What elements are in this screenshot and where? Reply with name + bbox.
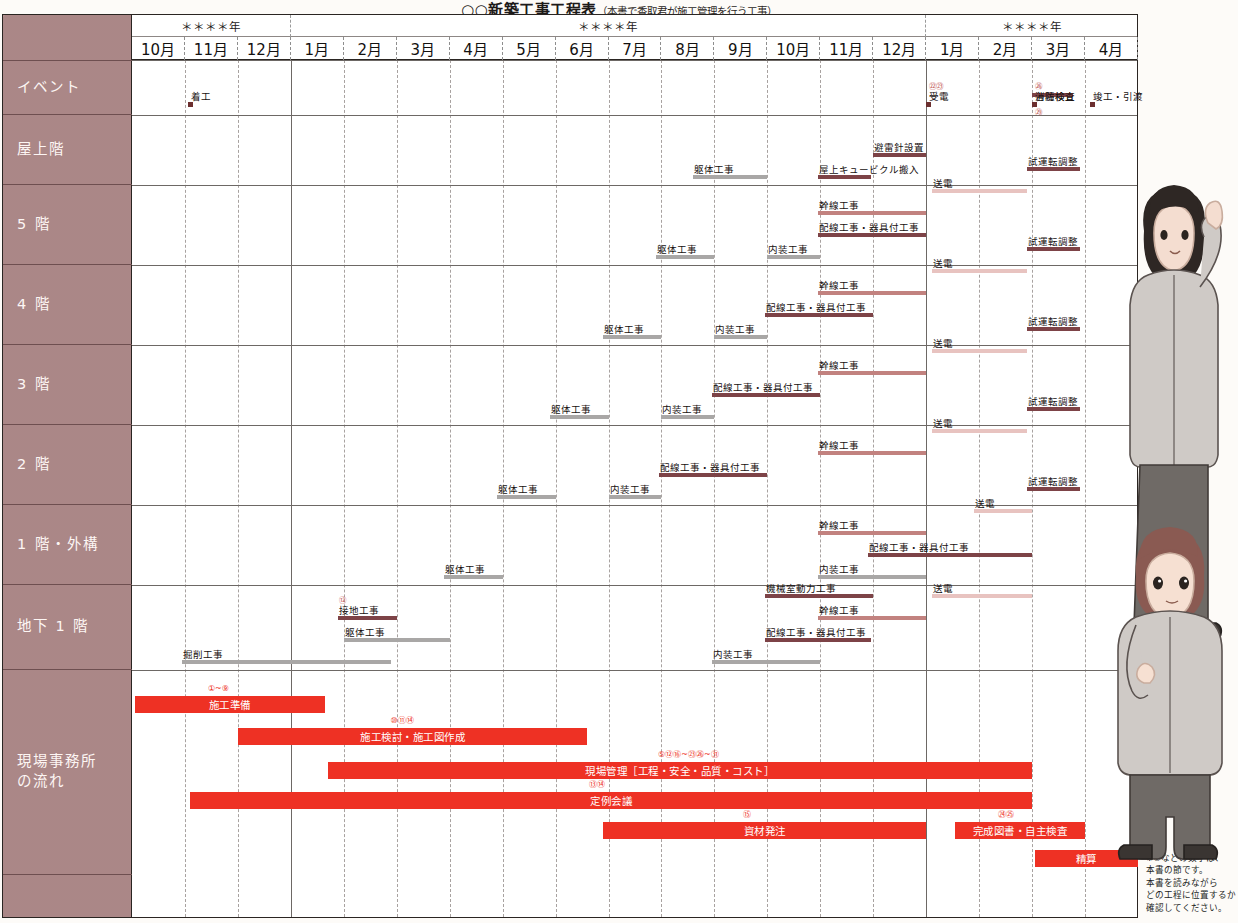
month-header-cell: 1月 bbox=[291, 37, 344, 60]
gantt-bar[interactable]: 送電 bbox=[932, 269, 1027, 273]
gantt-bar[interactable]: 内装工事 bbox=[712, 660, 821, 664]
gantt-milestone[interactable]: 着工 bbox=[188, 102, 193, 107]
gantt-bar[interactable]: 試運転調整 bbox=[1027, 167, 1080, 171]
milestone-marker-icon bbox=[188, 102, 193, 107]
gantt-milestone[interactable]: 受電㉒㉓ bbox=[926, 102, 931, 107]
gantt-bar[interactable]: 配線工事・器具付工事 bbox=[765, 313, 874, 317]
site-office-bar[interactable]: 完成図書・自主検査 bbox=[955, 822, 1085, 839]
gantt-bar[interactable]: 送電 bbox=[932, 349, 1027, 353]
gantt-bar[interactable]: 配線工事・器具付工事 bbox=[712, 393, 821, 397]
gantt-bar[interactable]: 接地工事⑫ bbox=[338, 616, 396, 620]
row-label-2: 屋上階 bbox=[3, 115, 132, 185]
gantt-milestone[interactable]: 消防検査㉙ bbox=[1032, 102, 1037, 107]
row-label-1: イベント bbox=[3, 60, 132, 115]
gantt-bar-label: 配線工事・器具付工事 bbox=[766, 628, 866, 638]
site-office-bar[interactable]: 資材発注 bbox=[603, 822, 926, 839]
gantt-bar[interactable]: 内装工事 bbox=[714, 335, 767, 339]
gantt-bar[interactable]: 掘削工事 bbox=[182, 660, 391, 664]
gantt-bar[interactable]: 屋上キュービクル搬入 bbox=[818, 175, 871, 179]
month-header-cell: 2月 bbox=[344, 37, 397, 60]
grid-vline bbox=[397, 60, 398, 917]
gantt-bar[interactable]: 配線工事・器具付工事 bbox=[659, 473, 768, 477]
site-office-bar[interactable]: 現場管理［工程・安全・品質・コスト］ bbox=[328, 762, 1032, 779]
gantt-bar[interactable]: 試運転調整 bbox=[1027, 247, 1080, 251]
gantt-bar-fill bbox=[693, 175, 767, 179]
gantt-bar[interactable]: 試運転調整 bbox=[1027, 407, 1080, 411]
milestone-marker-icon bbox=[1090, 102, 1095, 107]
gantt-bar[interactable]: 試運転調整 bbox=[1027, 327, 1080, 331]
gantt-bar[interactable]: 避雷針設置 bbox=[873, 153, 926, 157]
gantt-bar[interactable]: 幹線工事 bbox=[818, 451, 927, 455]
gantt-bar[interactable]: 幹線工事 bbox=[818, 371, 927, 375]
site-office-section-number: ㉔㉕ bbox=[998, 811, 1014, 819]
gantt-bar-fill bbox=[661, 415, 714, 419]
gantt-bar-fill bbox=[767, 255, 820, 259]
gantt-bar[interactable]: 躯体工事 bbox=[497, 495, 555, 499]
gantt-bar[interactable]: 送電 bbox=[974, 509, 1032, 513]
gantt-bar-label: 掘削工事 bbox=[183, 650, 223, 660]
gantt-bar[interactable]: 配線工事・器具付工事 bbox=[765, 638, 871, 642]
gantt-bar[interactable]: 内装工事 bbox=[609, 495, 662, 499]
gantt-bar[interactable]: 躯体工事 bbox=[444, 575, 502, 579]
year-header-row: ＊＊＊＊年＊＊＊＊年＊＊＊＊年 bbox=[132, 15, 1137, 37]
gantt-bar-fill bbox=[818, 616, 927, 620]
gantt-bar[interactable]: 送電 bbox=[932, 594, 1033, 598]
gantt-bar[interactable]: 試運転調整 bbox=[1027, 487, 1080, 491]
gantt-bar-label: 接地工事 bbox=[339, 606, 379, 616]
site-office-bar[interactable]: 定例会議 bbox=[190, 792, 1032, 809]
grid-vline bbox=[661, 60, 662, 917]
gantt-bar-label: 躯体工事 bbox=[657, 245, 697, 255]
gantt-bar-label: 配線工事・器具付工事 bbox=[660, 463, 760, 473]
gantt-bar-fill bbox=[932, 594, 1033, 598]
gantt-bar-fill bbox=[932, 429, 1027, 433]
gantt-bar-label: 送電 bbox=[933, 584, 953, 594]
gantt-bar-fill bbox=[712, 660, 821, 664]
character-illustration-man bbox=[1100, 525, 1238, 870]
gantt-bar[interactable]: 躯体工事 bbox=[344, 638, 450, 642]
row-label-6: 2 階 bbox=[3, 425, 132, 505]
gantt-bar[interactable]: 幹線工事 bbox=[818, 616, 927, 620]
gantt-bar[interactable]: 躯体工事 bbox=[656, 255, 714, 259]
month-header-cell: 10月 bbox=[132, 37, 185, 60]
month-header-cell: 5月 bbox=[503, 37, 556, 60]
gantt-bar[interactable]: 内装工事 bbox=[661, 415, 714, 419]
gantt-bar[interactable]: 内装工事 bbox=[818, 575, 927, 579]
gantt-bar-label: 幹線工事 bbox=[819, 281, 859, 291]
site-office-section-number: ⑩⑪⑭ bbox=[391, 717, 414, 725]
gantt-bar[interactable]: 送電 bbox=[932, 189, 1027, 193]
gantt-bar-label: 配線工事・器具付工事 bbox=[713, 383, 813, 393]
gantt-bar-fill bbox=[659, 473, 768, 477]
gantt-bar[interactable]: 機械室動力工事 bbox=[765, 594, 874, 598]
gantt-bar[interactable]: 躯体工事 bbox=[603, 335, 661, 339]
gantt-bar[interactable]: 幹線工事 bbox=[818, 211, 927, 215]
gantt-milestone[interactable]: 竣工・引渡 bbox=[1090, 102, 1095, 107]
month-header-cell: 3月 bbox=[397, 37, 450, 60]
milestone-label: 着工 bbox=[191, 92, 211, 102]
gantt-bar[interactable]: 幹線工事 bbox=[818, 291, 927, 295]
site-office-bar-label: 完成図書・自主検査 bbox=[955, 822, 1085, 839]
month-header-cell: 10月 bbox=[767, 37, 820, 60]
grid-vline bbox=[767, 60, 768, 917]
grid-vline bbox=[1085, 60, 1086, 917]
gantt-bar[interactable]: 内装工事 bbox=[767, 255, 820, 259]
site-office-bar-label: 施工準備 bbox=[135, 696, 326, 713]
milestone-section-number: ㉙ bbox=[1035, 109, 1042, 117]
gantt-bar-fill bbox=[497, 495, 555, 499]
gantt-bar-label: 試運転調整 bbox=[1028, 157, 1078, 167]
row-label-column: イベント屋上階5 階4 階3 階2 階1 階・外構地下 1 階現場事務所 の流れ bbox=[3, 15, 132, 917]
gantt-bar[interactable]: 幹線工事 bbox=[818, 531, 927, 535]
gantt-bar[interactable]: 配線工事・器具付工事 bbox=[818, 233, 927, 237]
gantt-bar-fill bbox=[818, 575, 927, 579]
gantt-bar[interactable]: 躯体工事 bbox=[550, 415, 608, 419]
gantt-bar[interactable]: 送電 bbox=[932, 429, 1027, 433]
site-office-bar[interactable]: 施工準備 bbox=[135, 696, 326, 713]
grid-hline bbox=[132, 115, 1137, 116]
site-office-bar-label: 資材発注 bbox=[603, 822, 926, 839]
gantt-bar[interactable]: 配線工事・器具付工事 bbox=[868, 553, 1032, 557]
gantt-bar[interactable]: 躯体工事 bbox=[693, 175, 767, 179]
site-office-bar[interactable]: 施工検討・施工図作成 bbox=[238, 728, 587, 745]
milestone-label: 消防検査 bbox=[1035, 92, 1075, 102]
grid-vline bbox=[926, 60, 927, 917]
grid-vline bbox=[344, 60, 345, 917]
gantt-bar-fill bbox=[656, 255, 714, 259]
